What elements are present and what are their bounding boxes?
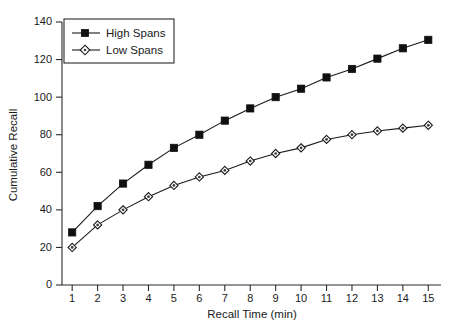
data-point-high-spans	[94, 203, 101, 210]
data-point-high-spans	[374, 55, 381, 62]
data-point-high-spans	[196, 131, 203, 138]
line-chart: 020406080100120140 123456789101112131415…	[0, 0, 451, 330]
legend-label-low-spans: Low Spans	[106, 44, 163, 56]
data-point-low-spans-dot	[249, 160, 252, 163]
data-point-low-spans-dot	[325, 138, 328, 141]
data-point-high-spans	[323, 74, 330, 81]
data-point-high-spans	[399, 45, 406, 52]
data-point-low-spans-dot	[71, 246, 74, 249]
y-tick-label: 40	[40, 203, 52, 215]
x-tick-label: 6	[196, 292, 202, 304]
y-tick-label: 0	[46, 278, 52, 290]
data-point-high-spans	[119, 180, 126, 187]
data-point-low-spans-dot	[300, 147, 303, 150]
data-point-high-spans	[221, 117, 228, 124]
data-point-low-spans-dot	[122, 209, 125, 212]
x-tick-label: 4	[145, 292, 151, 304]
x-tick-label: 9	[273, 292, 279, 304]
chart-figure: 020406080100120140 123456789101112131415…	[0, 0, 451, 330]
x-tick-label: 2	[95, 292, 101, 304]
x-axis-ticks: 123456789101112131415	[69, 285, 434, 304]
data-point-high-spans	[298, 85, 305, 92]
legend-label-high-spans: High Spans	[106, 27, 166, 39]
x-tick-label: 1	[69, 292, 75, 304]
x-tick-label: 15	[422, 292, 434, 304]
y-axis-ticks: 020406080100120140	[34, 15, 62, 290]
y-tick-label: 80	[40, 128, 52, 140]
x-tick-label: 13	[371, 292, 383, 304]
y-axis-title: Cumulative Recall	[7, 109, 19, 202]
chart-legend: High Spans Low Spans	[64, 19, 174, 63]
data-point-low-spans-dot	[223, 169, 226, 172]
data-point-low-spans-dot	[376, 130, 379, 133]
data-point-low-spans-dot	[351, 133, 354, 136]
x-tick-label: 8	[247, 292, 253, 304]
data-point-high-spans	[247, 105, 254, 112]
y-tick-label: 20	[40, 241, 52, 253]
series-layer	[68, 36, 432, 251]
x-axis-title: Recall Time (min)	[207, 308, 297, 320]
y-tick-label: 60	[40, 166, 52, 178]
legend-marker-high-spans	[82, 30, 89, 37]
data-point-low-spans-dot	[427, 124, 430, 127]
y-tick-label: 100	[34, 91, 52, 103]
x-tick-label: 14	[397, 292, 409, 304]
data-point-low-spans-dot	[198, 176, 201, 179]
y-tick-label: 120	[34, 53, 52, 65]
x-tick-label: 11	[321, 292, 332, 304]
data-point-low-spans-dot	[173, 184, 176, 187]
data-point-high-spans	[348, 65, 355, 72]
legend-marker-low-spans-dot	[84, 49, 87, 52]
data-point-low-spans-dot	[96, 224, 99, 227]
data-point-high-spans	[272, 94, 279, 101]
data-point-low-spans-dot	[274, 152, 277, 155]
x-tick-label: 10	[295, 292, 307, 304]
x-tick-label: 12	[346, 292, 358, 304]
x-tick-label: 5	[171, 292, 177, 304]
y-tick-label: 140	[34, 15, 52, 27]
series-line-high-spans	[72, 40, 428, 233]
data-point-low-spans-dot	[402, 127, 405, 130]
data-point-high-spans	[145, 161, 152, 168]
data-point-high-spans	[170, 144, 177, 151]
x-tick-label: 7	[222, 292, 228, 304]
x-tick-label: 3	[120, 292, 126, 304]
data-point-high-spans	[425, 36, 432, 43]
data-point-low-spans-dot	[147, 195, 150, 198]
data-point-high-spans	[69, 229, 76, 236]
